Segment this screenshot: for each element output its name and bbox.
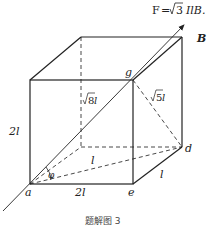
label-depth-right: l [160, 168, 164, 181]
formula-rhs: IlB. [185, 4, 205, 17]
label-g: g [125, 66, 132, 79]
edge-bottom-right [133, 147, 182, 184]
formula-sqrt-arg: 3 [176, 4, 183, 17]
label-phi: φ [48, 170, 55, 180]
cuboid-diagram: F = 3 IlB. B g a e d φ 2l 2l l l 8 l 5 [0, 0, 220, 233]
label-diag-gd-suffix: l [162, 92, 165, 103]
figure-caption: 题解图 3 [85, 215, 121, 226]
edge-top-left [30, 37, 81, 80]
label-d: d [185, 142, 192, 155]
formula-eq: = [161, 4, 170, 17]
label-diag-ag-suffix: l [94, 95, 97, 106]
front-face [30, 80, 133, 184]
edge-top-right [133, 37, 182, 80]
formula-lhs: F [152, 4, 160, 17]
label-B: B [196, 32, 206, 45]
label-diag-ad: l [91, 154, 95, 167]
hidden-edges [30, 37, 182, 184]
hidden-edge-left-bottom [30, 147, 81, 184]
label-a: a [25, 186, 32, 199]
label-height: 2l [8, 125, 20, 138]
label-bottom-front: 2l [74, 186, 86, 199]
label-e: e [128, 186, 135, 199]
visible-edges [30, 37, 182, 184]
